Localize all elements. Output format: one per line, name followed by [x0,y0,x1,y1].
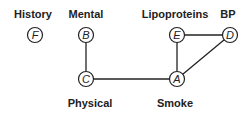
node-label-bp: BP [220,8,235,20]
node-letter: C [82,73,90,85]
node-label-lipoproteins: Lipoproteins [142,8,209,20]
node-e: E [170,28,185,43]
node-f: F [28,28,43,43]
node-a: A [170,72,185,87]
node-label-smoke: Smoke [157,97,193,109]
node-letter: E [173,29,181,41]
edge-a-d [183,40,224,74]
node-label-history: History [14,8,52,20]
node-d: D [223,28,238,43]
node-label-mental: Mental [69,8,104,20]
node-letter: D [226,29,234,41]
node-letter: B [82,29,89,41]
node-letter: A [172,73,180,85]
node-c: C [79,72,94,87]
node-b: B [79,28,94,43]
node-label-physical: Physical [68,97,113,109]
